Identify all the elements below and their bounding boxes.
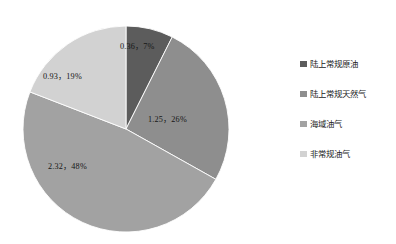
legend-item[interactable]: 陆上常规原油 <box>300 58 396 70</box>
pie-data-label: 0.93，19% <box>43 69 82 81</box>
legend-item-label: 陆上常规天然气 <box>310 90 366 98</box>
legend-item[interactable]: 非常规油气 <box>300 148 396 160</box>
pie-data-label: 0.36，7% <box>120 39 155 51</box>
pie-slice-group <box>23 26 229 232</box>
pie-data-label: 2.32，48% <box>48 159 87 171</box>
legend-color-swatch-icon <box>300 61 307 68</box>
chart-legend: 陆上常规原油陆上常规天然气海域油气非常规油气 <box>300 58 396 186</box>
legend-color-swatch-icon <box>300 91 307 98</box>
legend-item[interactable]: 海域油气 <box>300 118 396 130</box>
legend-item[interactable]: 陆上常规天然气 <box>300 88 396 100</box>
legend-item-label: 海域油气 <box>310 120 342 128</box>
pie-chart-figure: 0.36，7%1.25，26%2.32，48%0.93，19% 陆上常规原油陆上… <box>0 0 396 244</box>
pie-plot-area: 0.36，7%1.25，26%2.32，48%0.93，19% <box>0 0 260 244</box>
pie-svg <box>0 0 260 244</box>
pie-data-label: 1.25，26% <box>148 112 187 124</box>
legend-item-label: 非常规油气 <box>310 150 350 158</box>
legend-color-swatch-icon <box>300 121 307 128</box>
legend-color-swatch-icon <box>300 151 307 158</box>
legend-item-label: 陆上常规原油 <box>310 60 358 68</box>
